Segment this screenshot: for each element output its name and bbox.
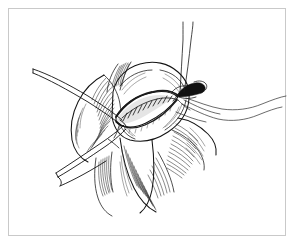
tissue-flap-upper-left xyxy=(107,62,131,92)
suture-vertical-pair xyxy=(180,22,193,92)
surgical-illustration xyxy=(0,0,295,245)
forceps-lower-left[interactable] xyxy=(56,125,126,186)
tissue-flap-lower xyxy=(120,138,156,213)
tissue-flap-lower-left xyxy=(95,152,113,216)
